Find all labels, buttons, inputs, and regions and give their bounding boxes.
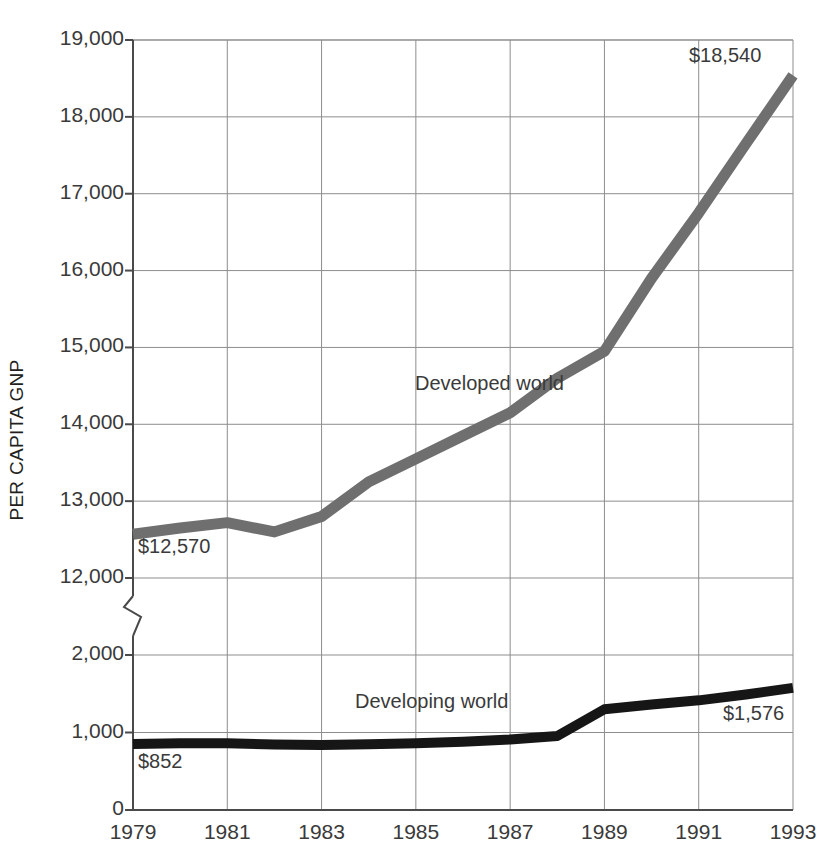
x-axis-tick-label: 1987 xyxy=(487,820,534,844)
series-label-developed: Developed world xyxy=(415,372,564,395)
y-axis-break-zigzag xyxy=(124,596,141,636)
y-axis-tick-text: 19,000 xyxy=(60,26,124,50)
x-axis-tick-label: 1985 xyxy=(392,820,439,844)
x-axis-tick-label: 1991 xyxy=(675,820,722,844)
developing-end-value-label: $1,576 xyxy=(723,702,784,725)
x-axis-tick-label: 1979 xyxy=(110,820,157,844)
series-label-developing: Developing world xyxy=(355,690,508,713)
y-axis-tick-text: 12,000 xyxy=(60,564,124,588)
y-axis-tick-text: 2,000 xyxy=(71,641,124,665)
y-axis-tick-text: 17,000 xyxy=(60,180,124,204)
y-axis-tick-text: 18,000 xyxy=(60,103,124,127)
developed-end-value-label: $18,540 xyxy=(689,44,761,67)
developing-start-value-label: $852 xyxy=(138,750,183,773)
y-axis-tick-text: 13,000 xyxy=(60,487,124,511)
chart-canvas xyxy=(0,0,837,864)
x-axis-tick-label: 1993 xyxy=(770,820,817,844)
y-axis-tick-text: 16,000 xyxy=(60,257,124,281)
y-axis-tick-text: 1,000 xyxy=(71,719,124,743)
x-axis-tick-label: 1983 xyxy=(298,820,345,844)
developed-start-value-label: $12,570 xyxy=(138,535,210,558)
series-line-developed xyxy=(133,75,793,534)
x-axis-tick-label: 1981 xyxy=(204,820,251,844)
y-axis-tick-text: 0 xyxy=(112,796,124,820)
y-axis-tick-text: 14,000 xyxy=(60,410,124,434)
y-axis-tick-text: 15,000 xyxy=(60,333,124,357)
x-axis-tick-label: 1989 xyxy=(581,820,628,844)
chart-figure: PER CAPITA GNP 01,0002,00012,00013,00014… xyxy=(0,0,837,864)
